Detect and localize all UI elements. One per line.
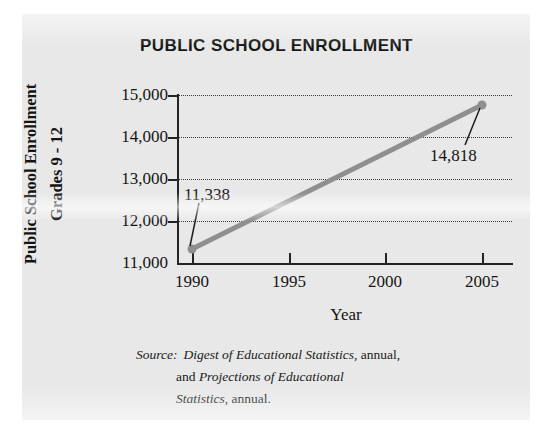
- source-note: Source:Digest of Educational Statistics,…: [136, 344, 496, 410]
- data-label-1990: 11,338: [184, 185, 230, 205]
- source-title-projections: Projections of Educational: [199, 369, 344, 384]
- leader-line-11338: [190, 203, 199, 246]
- source-title-statistics: Statistics: [176, 391, 225, 406]
- source-title-digest: Digest of Educational Statistics: [183, 347, 354, 362]
- source-line-3: Statistics, annual.: [136, 388, 496, 410]
- data-point-1990: [188, 245, 197, 254]
- source-line-2: and Projections of Educational: [136, 366, 496, 388]
- data-point-2005: [478, 101, 487, 110]
- data-label-2005: 14,818: [430, 146, 477, 166]
- source-line-3-rest: , annual.: [225, 391, 271, 406]
- source-line-1: Source:Digest of Educational Statistics,…: [136, 344, 496, 366]
- chart-figure: PUBLIC SCHOOL ENROLLMENT Public School E…: [0, 0, 553, 438]
- data-line-enrollment: [192, 105, 482, 249]
- source-line-2-prefix: and: [176, 369, 199, 384]
- source-lead-label: Source:: [136, 347, 177, 362]
- source-line-1-rest: , annual,: [354, 347, 400, 362]
